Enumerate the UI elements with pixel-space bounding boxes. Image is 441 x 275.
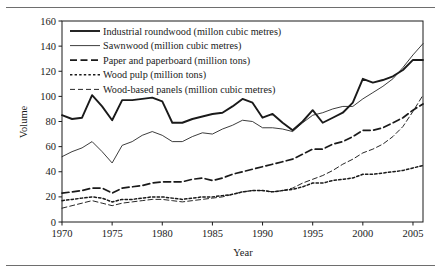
y-tick-label-0: 0 (51, 217, 56, 228)
data-series-group (62, 44, 423, 209)
x-tick-label-1995: 1995 (302, 228, 323, 239)
y-tick-label-140: 140 (40, 41, 56, 52)
series-line-wood (62, 165, 423, 201)
y-axis-title: Volume (18, 105, 29, 138)
x-tick-label-1970: 1970 (52, 228, 73, 239)
series-line-paper (62, 104, 423, 193)
line-chart: 020406080100120140160 197019751980198519… (0, 0, 441, 275)
x-tick-label-2000: 2000 (352, 228, 373, 239)
y-tick-label-40: 40 (46, 166, 57, 177)
x-tick-label-1990: 1990 (252, 228, 273, 239)
x-axis-title: Year (233, 247, 253, 258)
legend-label-0: Industrial roundwood (millon cubic metre… (103, 26, 281, 38)
y-tick-label-20: 20 (46, 191, 57, 202)
y-tick-label-120: 120 (40, 66, 56, 77)
legend-label-4: Wood-based panels (million cubic metres) (103, 84, 275, 96)
y-tick-label-100: 100 (40, 91, 56, 102)
legend-label-2: Paper and paperboard (million tons) (103, 55, 250, 67)
chart-legend: Industrial roundwood (millon cubic metre… (70, 26, 281, 96)
legend-label-1: Sawnwood (million cubic metres) (103, 40, 241, 52)
x-tick-label-1985: 1985 (202, 228, 223, 239)
x-tick-label-1975: 1975 (102, 228, 123, 239)
x-axis-tick-labels: 19701975198019851990199520002005 (52, 228, 424, 239)
y-axis-tick-labels: 020406080100120140160 (40, 16, 56, 228)
y-tick-label-60: 60 (46, 141, 57, 152)
x-tick-label-1980: 1980 (152, 228, 173, 239)
y-axis-ticks (59, 21, 63, 222)
figure-container: 020406080100120140160 197019751980198519… (0, 0, 441, 275)
x-tick-label-2005: 2005 (402, 228, 423, 239)
legend-label-3: Wood pulp (million tons) (103, 69, 206, 81)
x-axis-ticks (62, 222, 413, 226)
y-tick-label-80: 80 (46, 116, 57, 127)
y-tick-label-160: 160 (40, 16, 56, 27)
